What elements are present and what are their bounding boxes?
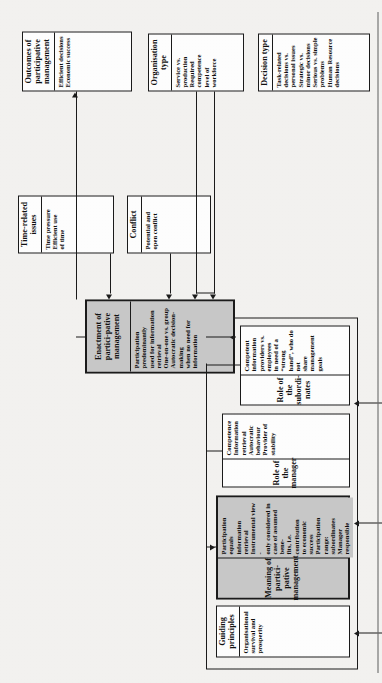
node-header: Guiding principles [217,606,240,656]
node-organisation-type[interactable]: Organisation type Service vs. production… [148,33,244,91]
arrowhead-guiding-principles-from-basic-value [354,631,359,637]
page-edge-line [377,12,379,673]
node-header: Meaning of partici-pative management [218,557,348,597]
connector-bus-to-role-subordinates [206,364,240,365]
connector-enactment-to-outcomes-riser [76,336,86,337]
node-header: Outcomes of participative management [23,32,55,90]
arrowhead-meaning [210,545,215,551]
arrowhead-enactment-from-time [106,294,112,299]
node-header: Enactment of partici-pative management [87,301,131,371]
node-body: Competent information providers vs. empl… [241,326,349,374]
node-body: Task-related decisions vs. personal issu… [273,34,369,90]
node-header: Role of the manager [223,458,349,486]
node-conflict[interactable]: Conflict Potential and open conflict [127,195,211,253]
connector-time-related-to-enactment [110,253,111,293]
arrowhead-outcomes [72,92,78,97]
connector-decision-type-riser [196,292,215,293]
node-role-of-the-manager[interactable]: Role of the manager Competence Informati… [222,413,350,487]
arrowhead-cluster-from-uncertainty-avoidance [354,401,359,407]
node-meaning-of-participative-management[interactable]: Meaning of partici-pative management Par… [216,495,350,599]
node-body: Service vs. production Required competen… [172,34,243,90]
node-header: Conflict [128,196,142,252]
node-header: Decision type [259,34,273,90]
node-header: Role of the subordi-nates [241,374,349,404]
node-guiding-principles[interactable]: Guiding principles Organisational surviv… [216,605,350,657]
connector-decision-type-to-enactment [214,91,215,293]
connector-cluster-bus [206,363,207,547]
node-body: Participation equals information retriev… [218,497,353,557]
diagram-canvas: Outcomes of participative management Eff… [0,0,382,683]
node-header: Time-related issues [19,196,42,252]
rotated-diagram-container: Outcomes of participative management Eff… [0,0,382,683]
node-body: Organisational survival and prosperity [240,606,349,656]
node-decision-type[interactable]: Decision type Task-related decisions vs.… [258,33,370,91]
arrowhead-cluster-from-power-distance [354,521,359,527]
arrowhead-enactment-from-organisation-type [192,294,198,299]
arrowhead-enactment-from-conflict [166,294,172,299]
node-role-of-the-subordinates[interactable]: Role of the subordi-nates Competent info… [240,325,350,405]
node-header: Organisation type [149,34,172,90]
connector-enactment-to-outcomes [76,91,77,299]
arrowhead-enactment-from-cluster [230,335,235,341]
connector-bus-to-role-manager [206,450,222,451]
arrowhead-enactment-from-decision-type [210,294,216,299]
node-body: Potential and open conflict [142,196,210,252]
connector-organisation-type-to-enactment [196,91,197,293]
node-body: Efficient decisions Economic success [55,32,131,90]
node-time-related-issues[interactable]: Time-related issues Time pressure Effici… [18,195,114,253]
node-outcomes-of-participative-management[interactable]: Outcomes of participative management Eff… [22,31,132,91]
connector-conflict-to-enactment [170,253,171,293]
node-body: Competence Information retrieval Autocra… [223,414,349,458]
